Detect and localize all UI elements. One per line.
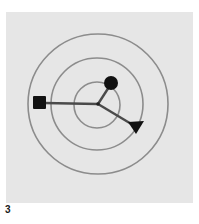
hub-point: [96, 102, 100, 106]
triangle-spoke: [98, 104, 133, 125]
concentric-ring-diagram: [0, 0, 199, 224]
figure-canvas: 3: [0, 0, 199, 224]
square-marker-icon: [33, 96, 46, 109]
circle-marker-icon: [104, 76, 118, 90]
circle-spoke: [98, 87, 109, 104]
triangle-marker-icon: [128, 121, 144, 134]
square-spoke: [44, 103, 98, 104]
figure-label: 3: [5, 204, 11, 216]
